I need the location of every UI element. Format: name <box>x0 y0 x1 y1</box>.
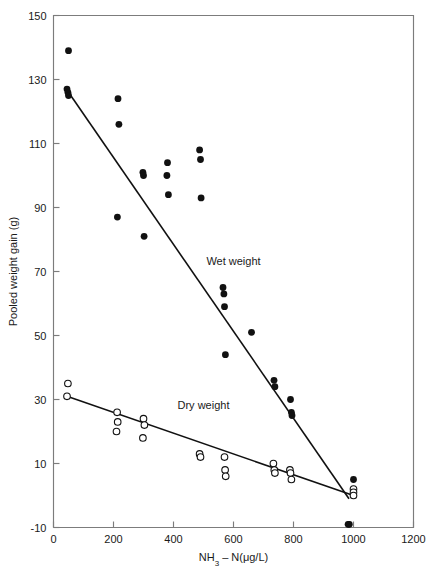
data-point-dry-13 <box>270 460 277 467</box>
data-point-wet-17 <box>221 291 228 298</box>
y-axis-title: Pooled weight gain (g) <box>7 217 19 326</box>
x-tick-label-0: 0 <box>50 533 56 545</box>
data-point-wet-6 <box>114 214 121 221</box>
chart-figure: 020040060080010001200 -10103050709011013… <box>0 0 440 570</box>
data-point-dry-11 <box>222 467 229 474</box>
data-point-dry-15 <box>272 470 279 477</box>
data-point-dry-21 <box>350 492 357 499</box>
data-point-dry-6 <box>141 422 148 429</box>
data-point-wet-11 <box>164 172 171 179</box>
dry-weight-label: Dry weight <box>178 399 230 411</box>
data-point-dry-7 <box>140 435 147 442</box>
data-point-dry-3 <box>114 419 121 426</box>
data-point-wet-0 <box>65 47 72 54</box>
data-point-wet-3 <box>65 92 72 99</box>
data-point-dry-9 <box>197 454 204 461</box>
y-tick-label-10: 10 <box>34 458 46 470</box>
data-point-wet-14 <box>197 156 204 163</box>
scatter-plot-svg: 020040060080010001200 -10103050709011013… <box>0 0 440 570</box>
y-tick-label-130: 130 <box>28 74 46 86</box>
y-tick-label-70: 70 <box>34 266 46 278</box>
data-point-wet-15 <box>198 195 205 202</box>
data-point-dry-12 <box>222 473 229 480</box>
data-point-wet-9 <box>141 233 148 240</box>
data-point-dry-2 <box>114 409 121 416</box>
data-point-wet-19 <box>222 351 229 358</box>
data-point-wet-23 <box>287 396 294 403</box>
y-tick-label-50: 50 <box>34 330 46 342</box>
data-point-wet-22 <box>272 383 279 390</box>
data-point-wet-25 <box>289 412 296 419</box>
y-tick-label--10: -10 <box>31 522 47 534</box>
data-point-wet-13 <box>196 147 203 154</box>
data-point-dry-4 <box>113 428 120 435</box>
data-point-dry-0 <box>65 380 72 387</box>
data-point-wet-5 <box>116 121 123 128</box>
y-tick-label-110: 110 <box>29 138 47 150</box>
x-tick-label-400: 400 <box>164 533 182 545</box>
x-tick-label-800: 800 <box>284 533 302 545</box>
data-point-dry-10 <box>221 454 228 461</box>
data-point-dry-18 <box>288 476 295 483</box>
wet-weight-label: Wet weight <box>206 255 260 267</box>
data-point-wet-12 <box>165 191 172 198</box>
y-tick-label-90: 90 <box>34 202 46 214</box>
y-tick-label-150: 150 <box>28 10 46 22</box>
data-point-wet-27 <box>346 521 353 528</box>
data-point-wet-10 <box>164 159 171 166</box>
x-tick-label-1000: 1000 <box>341 533 365 545</box>
y-tick-label-30: 30 <box>34 394 46 406</box>
x-tick-label-1200: 1200 <box>401 533 425 545</box>
data-point-wet-28 <box>350 476 357 483</box>
data-point-dry-5 <box>140 415 147 422</box>
data-point-dry-1 <box>64 393 71 400</box>
data-point-dry-17 <box>287 470 294 477</box>
data-point-wet-4 <box>115 95 122 102</box>
x-tick-label-600: 600 <box>224 533 242 545</box>
data-point-wet-20 <box>248 329 255 336</box>
plot-background <box>0 0 440 570</box>
data-point-wet-18 <box>221 303 228 310</box>
data-point-wet-16 <box>220 284 227 291</box>
x-tick-label-200: 200 <box>104 533 122 545</box>
data-point-wet-21 <box>271 377 278 384</box>
data-point-wet-8 <box>140 172 147 179</box>
